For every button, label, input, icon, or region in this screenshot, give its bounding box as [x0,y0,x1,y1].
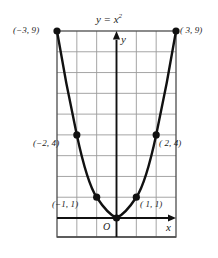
data-point [93,194,100,201]
y-axis [113,31,120,237]
point-label-3-9: ( 3, 9) [180,26,202,35]
x-axis-label: x [166,221,171,233]
point-label-neg3-9: (−3, 9) [13,26,39,35]
point-label-2-4: ( 2, 4) [159,139,181,148]
y-axis-label: y [121,33,126,45]
origin-label: O [103,221,110,232]
data-point [113,214,120,221]
point-label-1-1: ( 1, 1) [140,200,162,209]
data-point [53,27,60,34]
point-label-neg1-1: (−1, 1) [52,200,78,209]
parabola-figure: y = x2 [0,0,218,258]
data-point [172,27,179,34]
data-point [133,194,140,201]
point-label-neg2-4: (−2, 4) [33,139,59,148]
data-point [73,131,80,138]
plot-canvas [0,0,218,258]
